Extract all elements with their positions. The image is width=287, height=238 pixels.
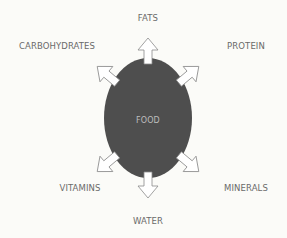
center-label: FOOD xyxy=(136,116,160,125)
label-minerals: MINERALS xyxy=(224,183,268,193)
label-protein: PROTEIN xyxy=(227,41,265,51)
label-carbohydrates: CARBOHYDRATES xyxy=(19,41,95,51)
label-water: WATER xyxy=(133,216,163,226)
label-fats: FATS xyxy=(138,13,158,23)
label-vitamins: VITAMINS xyxy=(59,183,100,193)
